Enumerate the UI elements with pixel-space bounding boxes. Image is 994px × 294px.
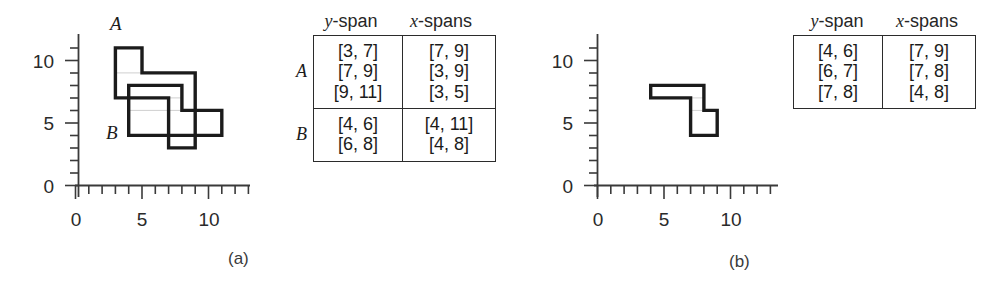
x-tick-label-5-a: 5 <box>122 210 162 229</box>
caption-panel-a: (a) <box>228 250 249 267</box>
y-tick-label-5-a: 5 <box>6 114 54 133</box>
y-tick-label-0-b: 0 <box>526 177 573 196</box>
region-b-panel-outline <box>651 85 718 135</box>
table-b-cell-xspan-3: [4, 8] <box>883 82 975 102</box>
table-b-cell-yspan-2: [6, 7] <box>794 61 882 81</box>
figure-container: 10 5 0 0 5 10 A B (a) y-span x-spans A <box>0 0 994 294</box>
table-a-cell-B-xspan-1: [4, 11] <box>403 114 495 134</box>
table-a-cell-A-xspans: [7, 9] [3, 9] [3, 5] <box>403 36 496 109</box>
y-ticks-a <box>65 48 79 186</box>
y-tick-label-0-a: 0 <box>6 177 54 196</box>
table-a-cell-B-yspan: [4, 6] [6, 8] <box>314 108 403 161</box>
table-a-cell-A-yspan: [3, 7] [7, 9] [9, 11] <box>314 36 403 109</box>
table-b-header-y-span: y-span <box>793 12 881 30</box>
caption-panel-b: (b) <box>729 253 750 270</box>
y-tick-label-10-b: 10 <box>526 52 573 71</box>
plot-panel-b: 10 5 0 0 5 10 <box>520 0 780 250</box>
x-ticks-a <box>76 186 249 200</box>
table-a-cell-B-yspan-1: [4, 6] <box>314 114 402 134</box>
table-a-cell-A-yspan-1: [3, 7] <box>314 41 402 61</box>
table-a-rowkey-A: A <box>285 36 314 109</box>
table-b-cell-yspan: [4, 6] [6, 7] [7, 8] <box>794 36 883 109</box>
table-a-cell-A-xspan-2: [3, 9] <box>403 61 495 81</box>
table-a-cell-B-xspans: [4, 11] [4, 8] <box>403 108 496 161</box>
table-panel-b: y-span x-spans [4, 6] [6, 7] [7, 8] [7, … <box>793 12 976 109</box>
set-label-b: B <box>106 123 118 142</box>
table-b-header-x-spans: x-spans <box>881 12 973 30</box>
table-a-cell-A-xspan-1: [7, 9] <box>403 41 495 61</box>
table-a-header-spacer <box>285 12 307 30</box>
table-row: [4, 6] [6, 7] [7, 8] [7, 9] [7, 8] [4, 8… <box>794 36 976 109</box>
table-b-cell-yspan-1: [4, 6] <box>794 41 882 61</box>
x-tick-label-10-b: 10 <box>710 210 752 229</box>
table-row: A [3, 7] [7, 9] [9, 11] [7, 9] [3, 9] [3… <box>285 36 496 109</box>
y-tick-label-5-b: 5 <box>526 114 573 133</box>
plot-panel-a: 10 5 0 0 5 10 A B <box>0 0 260 250</box>
table-b-header-x-italic: x <box>896 11 904 31</box>
x-ticks-b <box>598 186 771 200</box>
x-tick-label-10-a: 10 <box>188 210 230 229</box>
table-a-cell-B-yspan-2: [6, 8] <box>314 134 402 154</box>
x-tick-label-5-b: 5 <box>644 210 684 229</box>
y-ticks-b <box>584 48 598 186</box>
table-a-header-y-span: y-span <box>307 12 395 30</box>
set-label-a: A <box>110 14 122 33</box>
table-a-grid: A [3, 7] [7, 9] [9, 11] [7, 9] [3, 9] [3… <box>285 35 496 162</box>
table-b-header-row: y-span x-spans <box>793 12 976 30</box>
table-a-cell-A-yspan-3: [9, 11] <box>314 82 402 102</box>
table-b-grid: [4, 6] [6, 7] [7, 8] [7, 9] [7, 8] [4, 8… <box>793 35 976 109</box>
table-a-cell-A-xspan-3: [3, 5] <box>403 82 495 102</box>
table-a-header-x-italic: x <box>410 11 418 31</box>
table-row: B [4, 6] [6, 8] [4, 11] [4, 8] <box>285 108 496 161</box>
table-panel-a: y-span x-spans A [3, 7] [7, 9] [9, 11] [… <box>285 12 496 162</box>
x-tick-label-0-b: 0 <box>578 210 618 229</box>
table-a-header-x-spans: x-spans <box>395 12 487 30</box>
table-a-rowkey-B: B <box>285 108 314 161</box>
y-tick-label-10-a: 10 <box>6 52 54 71</box>
table-a-header-row: y-span x-spans <box>285 12 496 30</box>
table-b-cell-xspans: [7, 9] [7, 8] [4, 8] <box>883 36 976 109</box>
table-a-cell-A-yspan-2: [7, 9] <box>314 61 402 81</box>
table-b-cell-xspan-2: [7, 8] <box>883 61 975 81</box>
table-b-cell-yspan-3: [7, 8] <box>794 82 882 102</box>
table-a-header-y-rest: -span <box>332 11 377 31</box>
table-a-header-x-rest: -spans <box>418 11 472 31</box>
table-b-cell-xspan-1: [7, 9] <box>883 41 975 61</box>
table-b-header-x-rest: -spans <box>904 11 958 31</box>
table-a-cell-B-xspan-2: [4, 8] <box>403 134 495 154</box>
table-b-header-y-rest: -span <box>818 11 863 31</box>
x-tick-label-0-a: 0 <box>56 210 96 229</box>
